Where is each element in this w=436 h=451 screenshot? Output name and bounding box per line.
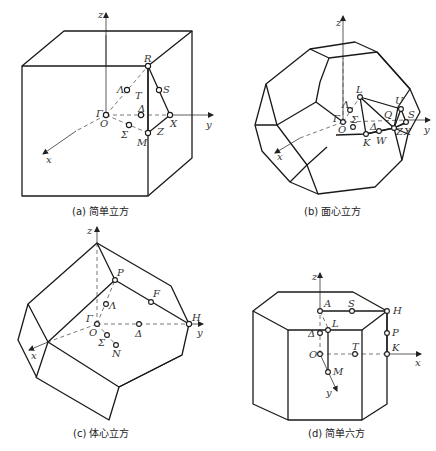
t-label: T (352, 341, 360, 352)
o-label: O (100, 118, 108, 129)
caption-b: (b) 面心立方 (304, 205, 361, 217)
s-label: S (408, 109, 415, 120)
o-label: O (309, 349, 317, 360)
y-label: y (325, 387, 332, 398)
panel-c-bcc: z y x Γ O P Λ F H Δ Σ N (c) 体心立方 (18, 225, 203, 439)
k-label: K (362, 137, 371, 148)
t-label: T (135, 90, 143, 101)
f-label: F (152, 288, 161, 299)
lambda-label: Λ (108, 300, 116, 311)
delta-label: Δ (307, 328, 315, 339)
m-label: M (136, 137, 148, 148)
u-label: U (395, 95, 404, 106)
o-label: O (89, 327, 97, 338)
z-point-label: Z (395, 126, 404, 137)
m-label: M (332, 366, 344, 377)
delta-label: Δ (134, 328, 142, 339)
panel-a-simple-cubic: z y x Γ O R S T Λ Δ X Z M Σ (a) 简单立方 (22, 9, 213, 217)
z-point-label: Z (156, 126, 165, 137)
x-label: x (46, 154, 52, 165)
point-t (353, 352, 358, 357)
x-point-label: X (169, 118, 178, 129)
delta-label: Δ (369, 121, 377, 132)
gamma-label: Γ (332, 113, 341, 124)
z-label: z (97, 9, 104, 20)
n-label: N (111, 348, 122, 359)
sigma-label: Σ (97, 337, 106, 348)
point-p (113, 278, 118, 283)
h-label: H (191, 312, 201, 323)
z-label: z (311, 271, 318, 282)
y-label: y (423, 124, 430, 135)
point-k (364, 132, 369, 137)
point-delta (318, 331, 323, 336)
lambda-label: Λ (116, 84, 124, 95)
point-w (377, 129, 382, 134)
p-label: P (391, 327, 399, 338)
point-lambda (104, 302, 109, 307)
l-label: L (355, 84, 363, 95)
cube-front-face (22, 66, 148, 196)
r-label: R (143, 53, 152, 64)
caption-a: (a) 简单立方 (72, 205, 129, 217)
point-r (145, 63, 150, 68)
point-f (149, 300, 154, 305)
point-m (326, 370, 331, 375)
z-label: z (335, 17, 342, 28)
panel-b-fcc: z y x Γ O L Λ Σ U Q S Δ K W Z X (b) 面心立方 (255, 16, 430, 217)
k-label: K (391, 342, 400, 353)
point-u (399, 107, 404, 112)
a-label: A (323, 298, 331, 309)
point-s (350, 309, 355, 314)
point-m (145, 130, 150, 135)
point-delta (137, 322, 142, 327)
point-x (167, 112, 172, 117)
point-s (404, 120, 409, 125)
point-h (186, 321, 191, 326)
point-l (326, 328, 331, 333)
sigma-label: Σ (120, 129, 129, 140)
x-axis (43, 131, 76, 154)
panel-d-hexagonal: z x y A S H L Δ P O T K M (d) 简单六方 (253, 271, 421, 439)
point-k (385, 352, 390, 357)
x-label: x (277, 151, 283, 162)
point-h (385, 309, 390, 314)
sigma-label: Σ (350, 114, 359, 125)
point-p (385, 331, 390, 336)
caption-d: (d) 简单六方 (308, 427, 365, 439)
point-sigma (126, 122, 131, 127)
o-label: O (338, 124, 346, 135)
caption-c: (c) 体心立方 (73, 427, 129, 439)
x-label: x (415, 357, 421, 368)
point-gamma (103, 112, 108, 117)
delta-label: Δ (137, 103, 145, 114)
point-lambda (124, 87, 129, 92)
point-a (318, 309, 323, 314)
point-l (358, 95, 363, 100)
brillouin-zones-figure: z y x Γ O R S T Λ Δ X Z M Σ (a) 简单立方 (0, 0, 436, 451)
w-label: W (376, 135, 387, 146)
point-gamma (95, 322, 100, 327)
x-point-label: X (403, 126, 412, 137)
gamma-label: Γ (85, 313, 94, 324)
point-s (156, 87, 161, 92)
point-sigma (105, 333, 110, 338)
point-n (114, 343, 119, 348)
y-label: y (205, 119, 212, 130)
x-label: x (31, 350, 37, 361)
point-o (318, 352, 323, 357)
z-label: z (86, 225, 93, 236)
p-label: P (116, 267, 124, 278)
lambda-label: Λ (341, 99, 349, 110)
h-label: H (392, 305, 402, 316)
s-label: S (348, 298, 355, 309)
l-label: L (331, 318, 339, 329)
point-sigma (351, 125, 356, 130)
s-label: S (163, 84, 170, 95)
y-label: y (196, 327, 203, 338)
q-label: Q (384, 109, 392, 120)
